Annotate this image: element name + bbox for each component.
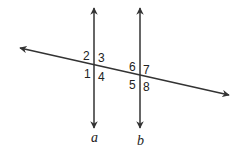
- angle-label-6: 6: [129, 60, 136, 74]
- angle-label-3: 3: [98, 51, 105, 65]
- line-label-b: b: [137, 133, 144, 148]
- diagram-canvas: 1 2 3 4 5 6 7 8 a b: [0, 0, 242, 153]
- line-label-a: a: [91, 130, 98, 145]
- angle-label-1: 1: [84, 67, 91, 81]
- angle-label-7: 7: [143, 63, 150, 77]
- angle-label-8: 8: [143, 80, 150, 94]
- angle-label-5: 5: [129, 78, 136, 92]
- transversal-line: [20, 48, 229, 95]
- angle-diagram: 1 2 3 4 5 6 7 8 a b: [0, 0, 242, 153]
- angle-label-2: 2: [83, 49, 90, 63]
- angle-label-4: 4: [98, 70, 105, 84]
